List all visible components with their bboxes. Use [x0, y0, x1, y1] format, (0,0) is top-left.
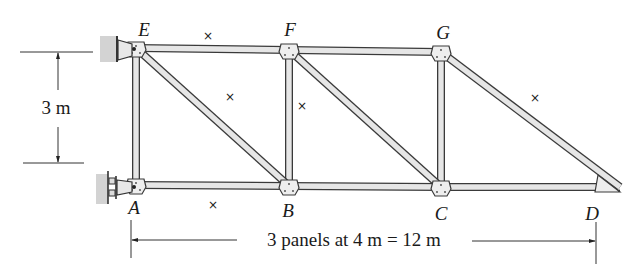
- zero-force-mark: ×: [203, 29, 213, 43]
- truss-members: [136, 48, 620, 187]
- joint-label-F: F: [283, 19, 296, 40]
- gusset-G: [431, 46, 451, 61]
- joint-label-A: A: [126, 197, 140, 218]
- zero-force-mark: ×: [297, 99, 307, 113]
- gusset-plates: [126, 42, 620, 196]
- gusset-B: [279, 180, 299, 195]
- joint-label-C: C: [435, 203, 448, 224]
- truss-diagram: 3 m 3 panels at 4 m = 12 m EFGABCD ×××××: [0, 0, 640, 278]
- span-dimension: 3 panels at 4 m = 12 m: [131, 220, 596, 264]
- span-label: 3 panels at 4 m = 12 m: [267, 229, 441, 250]
- zero-force-mark: ×: [208, 198, 218, 212]
- pin-support-E: [100, 36, 136, 62]
- joint-label-E: E: [137, 19, 150, 40]
- zero-force-mark: ×: [225, 90, 235, 104]
- height-dimension: 3 m: [20, 52, 93, 163]
- joint-label-B: B: [282, 200, 294, 221]
- zero-force-mark: ×: [530, 91, 540, 105]
- joint-label-D: D: [584, 203, 599, 224]
- gusset-C: [431, 181, 451, 196]
- joint-label-G: G: [436, 22, 450, 43]
- height-label: 3 m: [41, 97, 70, 118]
- gusset-F: [279, 44, 299, 59]
